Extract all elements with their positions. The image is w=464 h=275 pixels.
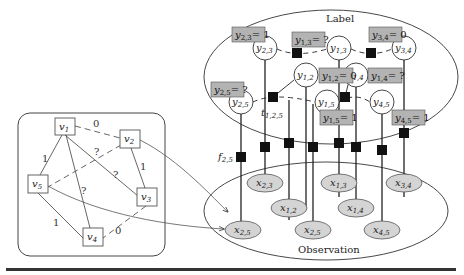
label-region-title: Label xyxy=(326,13,354,24)
y-node-4-5: y4,5 xyxy=(370,90,394,114)
x-node-2-5-second: x2,5 xyxy=(295,221,331,239)
assignment-y23: y2,3= 1 xyxy=(232,27,270,42)
triad-factor-square xyxy=(268,92,278,102)
assignment-y15: y1,5= 1 xyxy=(320,110,358,125)
edge-label-v1-v2: 0 xyxy=(93,118,99,129)
x-node-4-5: x4,5 xyxy=(364,221,400,239)
edge-label-v2-v3: 1 xyxy=(140,161,146,172)
x-node-3-4: x3,4 xyxy=(386,174,422,192)
node-v4: v4 xyxy=(83,228,103,246)
node-v1: v1 xyxy=(55,118,75,135)
x-node-1-3: x1,3 xyxy=(321,174,357,192)
edge-label-v1-v3: ? xyxy=(113,169,118,180)
node-v2: v2 xyxy=(120,130,140,148)
factor-square xyxy=(292,48,302,58)
assignment-y45: y4,5= 1 xyxy=(392,110,430,125)
edge-label-v1-v5: 1 xyxy=(42,153,48,164)
assignment-y25: y2,5= ? xyxy=(211,82,248,97)
assignment-y12: y1,2= 0 xyxy=(319,68,357,83)
x-node-1-4: x1,4 xyxy=(338,199,374,217)
y-node-1-3: y1,3 xyxy=(327,36,351,60)
assignment-y13: y1,3= ? xyxy=(292,32,329,47)
edge-label-v1-v4: ? xyxy=(81,185,86,196)
bottom-rule xyxy=(6,268,456,271)
assignment-y34: y3,4= 0 xyxy=(369,27,407,42)
observation-factor-label: f2,5 xyxy=(217,151,233,164)
node-v3: v3 xyxy=(137,188,157,206)
graph-nodes: v1 v2 v3 v4 v5 xyxy=(28,118,157,246)
y-node-1-2: y1,2 xyxy=(294,63,318,87)
assignment-y14: y1,4= ? xyxy=(368,68,405,83)
x-node-2-5-main: x2,5 xyxy=(225,221,261,239)
mapping-arrow-v5 xyxy=(48,186,224,229)
edge-label-v2-v5: ? xyxy=(94,146,99,157)
factor-graph-diagram: 0 1 ? ? ? 1 1 0 v1 v2 v3 v4 v5 xyxy=(0,0,464,275)
x-nodes: x2,3 x1,3 x3,4 x1,2 x1,4 x2,5 x2,5 x4,5 xyxy=(225,174,422,239)
observation-region-title: Observation xyxy=(298,244,360,255)
factor-square xyxy=(366,48,376,58)
x-node-2-3: x2,3 xyxy=(247,174,283,192)
triad-factor-label: t1,2,5 xyxy=(261,107,283,120)
x-node-1-2: x1,2 xyxy=(271,199,307,217)
edge-label-v3-v4: 0 xyxy=(115,225,121,236)
edge-v1-v4 xyxy=(66,135,90,228)
node-v5: v5 xyxy=(28,175,48,193)
edge-label-v5-v4: 1 xyxy=(53,217,59,228)
factor-square xyxy=(340,92,350,102)
